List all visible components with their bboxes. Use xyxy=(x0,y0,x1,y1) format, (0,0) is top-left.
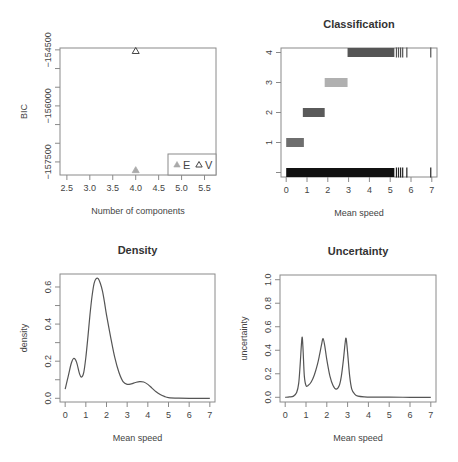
x-tick-label: 5.0 xyxy=(175,183,188,193)
density-curve xyxy=(65,278,210,398)
legend: EV xyxy=(168,154,216,175)
plot-frame xyxy=(60,274,215,402)
x-tick-label: 0 xyxy=(284,185,289,195)
y-axis: 0.00.20.40.6 xyxy=(43,281,60,405)
x-tick-label: 0 xyxy=(283,410,288,420)
x-axis: 01234567 xyxy=(63,402,213,420)
x-tick-label: 6 xyxy=(407,410,412,420)
class-bar-0 xyxy=(286,168,394,177)
y-tick-label: 1 xyxy=(264,140,274,145)
class-bar-1 xyxy=(286,138,304,147)
x-axis-label: Mean speed xyxy=(333,433,383,443)
x-tick-label: 2 xyxy=(325,185,330,195)
y-axis-label: uncertainty xyxy=(239,316,249,361)
panel-bic: 2.53.03.54.04.55.05.5Number of component… xyxy=(19,32,216,216)
x-tick-label: 5 xyxy=(387,410,392,420)
y-tick-label: 0.2 xyxy=(43,355,53,368)
x-tick-label: 7 xyxy=(207,410,212,420)
x-tick-label: 4 xyxy=(366,410,371,420)
y-axis: 0.00.20.40.60.81.0 xyxy=(263,273,280,403)
y-tick-label: 2 xyxy=(264,110,274,115)
y-tick-label: 0.4 xyxy=(43,318,53,331)
x-tick-label: 7 xyxy=(428,410,433,420)
x-tick-label: 2 xyxy=(324,410,329,420)
x-tick-label: 5 xyxy=(388,185,393,195)
y-axis: 1234 xyxy=(264,50,281,173)
panel-title: Density xyxy=(118,244,159,256)
x-tick-label: 3 xyxy=(125,410,130,420)
y-tick-label: −157500 xyxy=(43,144,53,179)
y-tick-label: 0.0 xyxy=(43,392,53,405)
x-tick-label: 4.5 xyxy=(152,183,165,193)
x-axis-label: Mean speed xyxy=(334,208,384,218)
y-tick-label: 0.2 xyxy=(263,368,273,381)
panel-classification: Classification01234567Mean speed1234 xyxy=(264,18,437,218)
y-tick-label: 3 xyxy=(264,80,274,85)
x-tick-label: 2.5 xyxy=(61,183,74,193)
panel-density: Density01234567Mean speed0.00.20.40.6den… xyxy=(19,244,215,443)
y-tick-label: −154500 xyxy=(43,32,53,67)
legend-label-E: E xyxy=(183,159,190,171)
x-axis: 01234567 xyxy=(284,177,435,195)
class-bar-2 xyxy=(303,108,325,117)
panel-title: Uncertainty xyxy=(328,245,389,257)
uncertainty-curve xyxy=(285,337,431,397)
x-axis-label: Mean speed xyxy=(113,433,163,443)
point-E xyxy=(132,167,139,173)
y-tick-label: 1.0 xyxy=(263,273,273,286)
panel-title: Classification xyxy=(323,18,395,30)
y-tick-label: 0.8 xyxy=(263,297,273,310)
y-tick-label: 0.6 xyxy=(43,281,53,294)
x-tick-label: 4 xyxy=(145,410,150,420)
y-tick-label: −156000 xyxy=(43,88,53,123)
x-tick-label: 3 xyxy=(346,185,351,195)
legend-label-V: V xyxy=(205,159,213,171)
y-tick-label: 0.6 xyxy=(263,320,273,333)
x-tick-label: 4 xyxy=(367,185,372,195)
x-tick-label: 6 xyxy=(187,410,192,420)
mclust-summary-figure: 2.53.03.54.04.55.05.5Number of component… xyxy=(0,0,458,462)
x-tick-label: 6 xyxy=(408,185,413,195)
panel-uncertainty: Uncertainty01234567Mean speed0.00.20.40.… xyxy=(239,245,436,443)
x-axis: 2.53.03.54.04.55.05.5 xyxy=(61,175,211,193)
x-axis: 01234567 xyxy=(283,402,434,420)
x-tick-label: 4.0 xyxy=(129,183,142,193)
x-tick-label: 2 xyxy=(104,410,109,420)
x-tick-label: 1 xyxy=(83,410,88,420)
y-axis: −154500−156000−157500 xyxy=(43,32,60,179)
y-tick-label: 4 xyxy=(264,50,274,55)
x-tick-label: 1 xyxy=(303,410,308,420)
y-tick-label: 0.4 xyxy=(263,344,273,357)
x-tick-label: 5 xyxy=(166,410,171,420)
figure-svg: 2.53.03.54.04.55.05.5Number of component… xyxy=(0,0,458,462)
class-bar-4 xyxy=(348,48,395,57)
x-tick-label: 1 xyxy=(304,185,309,195)
x-tick-label: 3 xyxy=(345,410,350,420)
x-tick-label: 7 xyxy=(429,185,434,195)
x-tick-label: 3.5 xyxy=(107,183,120,193)
x-tick-label: 0 xyxy=(63,410,68,420)
plot-frame xyxy=(280,275,436,402)
y-axis-label: BIC xyxy=(19,104,29,120)
x-tick-label: 3.0 xyxy=(84,183,97,193)
y-tick-label: 0.0 xyxy=(263,391,273,404)
y-axis-label: density xyxy=(19,323,29,352)
x-axis-label: Number of components xyxy=(91,206,185,216)
class-bar-3 xyxy=(325,78,348,87)
x-tick-label: 5.5 xyxy=(198,183,211,193)
